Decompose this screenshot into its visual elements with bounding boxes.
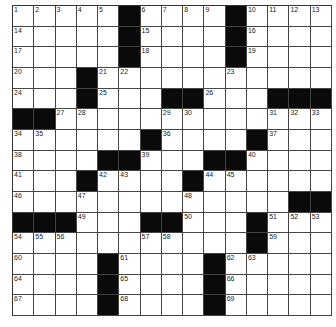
grid-cell[interactable] (56, 295, 77, 316)
grid-cell[interactable] (183, 254, 204, 275)
grid-cell[interactable]: 48 (183, 192, 204, 213)
grid-cell[interactable] (141, 109, 162, 130)
grid-cell[interactable]: 66 (226, 275, 247, 296)
grid-cell[interactable] (289, 130, 310, 151)
grid-cell[interactable] (56, 192, 77, 213)
grid-cell[interactable]: 61 (119, 254, 140, 275)
grid-cell[interactable]: 29 (162, 109, 183, 130)
grid-cell[interactable] (289, 47, 310, 68)
grid-cell[interactable] (34, 27, 55, 48)
grid-cell[interactable]: 55 (34, 233, 55, 254)
grid-cell[interactable]: 59 (268, 233, 289, 254)
grid-cell[interactable]: 31 (268, 109, 289, 130)
grid-cell[interactable] (268, 27, 289, 48)
grid-cell[interactable] (162, 254, 183, 275)
grid-cell[interactable] (77, 295, 98, 316)
grid-cell[interactable] (162, 151, 183, 172)
grid-cell[interactable] (226, 130, 247, 151)
grid-cell[interactable]: 44 (204, 171, 225, 192)
grid-cell[interactable]: 4 (77, 6, 98, 27)
grid-cell[interactable] (56, 130, 77, 151)
grid-cell[interactable]: 53 (311, 213, 332, 234)
grid-cell[interactable] (141, 192, 162, 213)
grid-cell[interactable] (311, 171, 332, 192)
grid-cell[interactable] (56, 89, 77, 110)
grid-cell[interactable] (56, 254, 77, 275)
grid-cell[interactable] (77, 27, 98, 48)
grid-cell[interactable]: 28 (77, 109, 98, 130)
grid-cell[interactable]: 27 (56, 109, 77, 130)
grid-cell[interactable] (56, 68, 77, 89)
grid-cell[interactable]: 14 (13, 27, 34, 48)
grid-cell[interactable]: 49 (77, 213, 98, 234)
grid-cell[interactable] (34, 295, 55, 316)
grid-cell[interactable] (204, 130, 225, 151)
grid-cell[interactable] (247, 295, 268, 316)
grid-cell[interactable] (268, 295, 289, 316)
grid-cell[interactable]: 57 (141, 233, 162, 254)
grid-cell[interactable] (226, 192, 247, 213)
grid-cell[interactable] (311, 233, 332, 254)
grid-cell[interactable] (289, 254, 310, 275)
grid-cell[interactable] (77, 130, 98, 151)
grid-cell[interactable] (247, 109, 268, 130)
grid-cell[interactable] (56, 151, 77, 172)
grid-cell[interactable]: 41 (13, 171, 34, 192)
grid-cell[interactable] (311, 27, 332, 48)
grid-cell[interactable] (34, 275, 55, 296)
grid-cell[interactable] (34, 192, 55, 213)
grid-cell[interactable]: 63 (247, 254, 268, 275)
grid-cell[interactable] (247, 192, 268, 213)
grid-cell[interactable]: 50 (183, 213, 204, 234)
grid-cell[interactable]: 24 (13, 89, 34, 110)
grid-cell[interactable] (56, 171, 77, 192)
grid-cell[interactable] (119, 130, 140, 151)
grid-cell[interactable] (247, 89, 268, 110)
grid-cell[interactable] (289, 171, 310, 192)
grid-cell[interactable] (162, 27, 183, 48)
grid-cell[interactable] (311, 275, 332, 296)
grid-cell[interactable]: 26 (204, 89, 225, 110)
grid-cell[interactable]: 1 (13, 6, 34, 27)
grid-cell[interactable]: 62 (226, 254, 247, 275)
grid-cell[interactable] (268, 47, 289, 68)
grid-cell[interactable] (34, 47, 55, 68)
grid-cell[interactable]: 39 (141, 151, 162, 172)
grid-cell[interactable]: 20 (13, 68, 34, 89)
grid-cell[interactable] (141, 68, 162, 89)
grid-cell[interactable] (119, 233, 140, 254)
grid-cell[interactable] (98, 213, 119, 234)
grid-cell[interactable] (77, 47, 98, 68)
grid-cell[interactable] (204, 68, 225, 89)
grid-cell[interactable] (98, 27, 119, 48)
grid-cell[interactable]: 68 (119, 295, 140, 316)
grid-cell[interactable] (141, 275, 162, 296)
grid-cell[interactable] (77, 275, 98, 296)
grid-cell[interactable]: 69 (226, 295, 247, 316)
grid-cell[interactable] (289, 275, 310, 296)
grid-cell[interactable]: 65 (119, 275, 140, 296)
grid-cell[interactable] (56, 27, 77, 48)
grid-cell[interactable] (204, 27, 225, 48)
grid-cell[interactable]: 18 (141, 47, 162, 68)
grid-cell[interactable] (98, 130, 119, 151)
grid-cell[interactable]: 52 (289, 213, 310, 234)
grid-cell[interactable] (268, 151, 289, 172)
grid-cell[interactable]: 56 (56, 233, 77, 254)
grid-cell[interactable]: 3 (56, 6, 77, 27)
grid-cell[interactable] (289, 68, 310, 89)
grid-cell[interactable] (268, 275, 289, 296)
grid-cell[interactable]: 21 (98, 68, 119, 89)
grid-cell[interactable] (162, 68, 183, 89)
grid-cell[interactable] (311, 254, 332, 275)
grid-cell[interactable] (183, 275, 204, 296)
grid-cell[interactable]: 46 (13, 192, 34, 213)
grid-cell[interactable] (183, 151, 204, 172)
grid-cell[interactable]: 8 (183, 6, 204, 27)
grid-cell[interactable] (119, 109, 140, 130)
grid-cell[interactable] (77, 233, 98, 254)
grid-cell[interactable] (162, 47, 183, 68)
grid-cell[interactable]: 54 (13, 233, 34, 254)
grid-cell[interactable]: 6 (141, 6, 162, 27)
grid-cell[interactable] (204, 109, 225, 130)
